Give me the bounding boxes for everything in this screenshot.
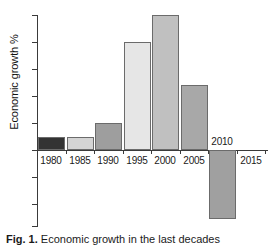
x-tick-mark xyxy=(37,150,38,154)
y-axis-line xyxy=(37,15,38,227)
x-tick-mark xyxy=(265,150,266,154)
x-tick-mark xyxy=(180,150,181,154)
x-tick-mark xyxy=(66,150,67,154)
bar-1990 xyxy=(95,123,122,150)
bar-2000 xyxy=(152,15,179,150)
x-tick-label-2005: 2005 xyxy=(177,155,211,166)
y-tick-mark xyxy=(32,15,37,16)
bar-1985 xyxy=(67,137,94,151)
y-tick-mark xyxy=(32,177,37,178)
bar-2010 xyxy=(209,150,236,219)
figure-caption: Fig. 1. Economic growth in the last deca… xyxy=(6,233,268,245)
y-tick-mark xyxy=(32,204,37,205)
x-tick-mark xyxy=(151,150,152,154)
x-tick-label-2015: 2015 xyxy=(234,155,268,166)
y-tick-mark xyxy=(32,69,37,70)
bar-1980 xyxy=(38,137,65,151)
caption-text: Economic growth in the last decades xyxy=(38,233,220,245)
y-tick-mark xyxy=(32,42,37,43)
caption-label: Fig. 1. xyxy=(6,233,38,245)
x-tick-label-2010: 2010 xyxy=(205,136,239,147)
y-axis-title: Economic growth % xyxy=(8,2,20,162)
bar-2005 xyxy=(181,85,208,151)
y-tick-mark xyxy=(32,226,37,227)
bar-1995 xyxy=(124,42,151,150)
x-tick-mark xyxy=(123,150,124,154)
x-tick-mark xyxy=(237,150,238,154)
y-tick-mark xyxy=(32,96,37,97)
y-tick-mark xyxy=(32,123,37,124)
x-tick-mark xyxy=(94,150,95,154)
plot-area: Economic growth % 10 8 6 4 2 0 −2 −4 −6 xyxy=(0,0,271,232)
